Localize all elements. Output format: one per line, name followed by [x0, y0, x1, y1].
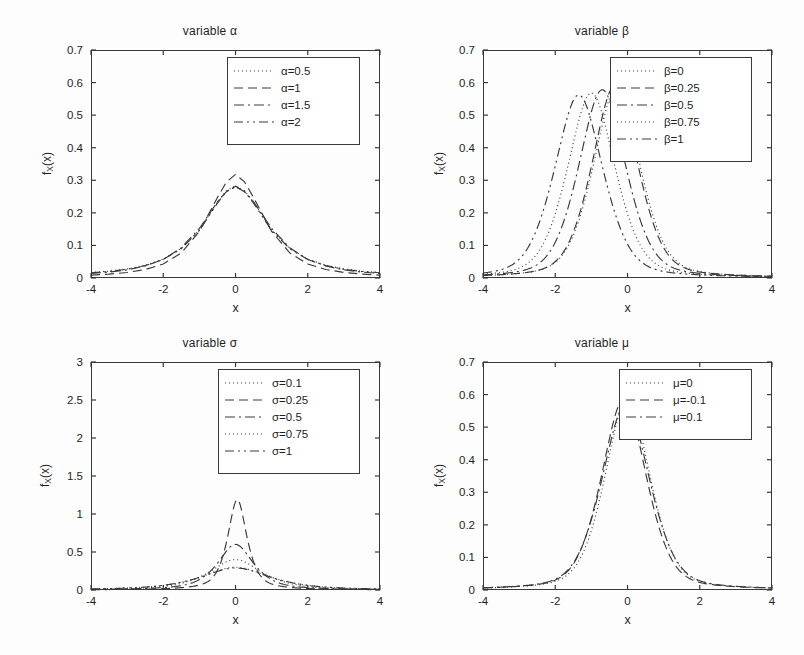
legend-line-sample — [624, 378, 668, 388]
x-tick-label: 2 — [697, 595, 703, 607]
y-axis-label-text: fX(x) — [432, 464, 446, 487]
legend-line-sample — [615, 134, 659, 144]
legend-label: β=0 — [659, 65, 684, 77]
data-curve — [91, 560, 380, 590]
y-tick-label: 0.5 — [422, 109, 475, 121]
legend-line-sample — [223, 395, 267, 405]
legend-row: β=0.5 — [615, 96, 746, 113]
legend-row: σ=0.5 — [223, 408, 354, 425]
y-axis-label-mu: fX(x) — [432, 441, 447, 511]
y-axis-label-text: fX(x) — [40, 152, 54, 175]
x-tick-label: 0 — [624, 283, 630, 295]
legend-label: α=1 — [276, 82, 301, 94]
legend-label: σ=0.25 — [267, 394, 308, 406]
legend-alpha: α=0.5α=1α=1.5α=2 — [227, 57, 360, 145]
y-tick-label: 1.5 — [30, 470, 83, 482]
y-tick-label: 0.6 — [422, 389, 475, 401]
legend-label: σ=0.1 — [267, 377, 302, 389]
legend-label: α=2 — [276, 116, 301, 128]
legend-row: α=1.5 — [232, 96, 354, 113]
y-tick-label: 0.4 — [422, 454, 475, 466]
panel-variable-beta: variable β fX(x) x β=0β=0.25β=0.5β=0.75β… — [412, 24, 792, 329]
y-tick-label: 0.2 — [422, 207, 475, 219]
panel-variable-sigma: variable σ fX(x) x σ=0.1σ=0.25σ=0.5σ=0.7… — [20, 336, 400, 641]
y-tick-label: 0.3 — [422, 174, 475, 186]
y-tick-label: 0 — [422, 272, 475, 284]
y-tick-label: 0.4 — [422, 142, 475, 154]
legend-row: α=2 — [232, 113, 354, 130]
legend-label: μ=-0.1 — [668, 394, 706, 406]
legend-label: β=0.5 — [659, 99, 693, 111]
legend-label: σ=0.75 — [267, 428, 308, 440]
x-tick-label: -4 — [86, 595, 96, 607]
legend-row: μ=0 — [624, 374, 746, 391]
y-tick-label: 2 — [30, 432, 83, 444]
y-axis-label-alpha: fX(x) — [40, 129, 55, 199]
legend-line-sample — [615, 83, 659, 93]
data-curve — [91, 187, 380, 274]
data-curve — [91, 186, 380, 273]
legend-row: σ=0.1 — [223, 374, 354, 391]
y-tick-label: 0.6 — [422, 77, 475, 89]
y-tick-label: 1 — [30, 508, 83, 520]
data-curve — [91, 567, 380, 589]
legend-line-sample — [232, 66, 276, 76]
legend-row: β=0.25 — [615, 79, 746, 96]
legend-label: β=0.75 — [659, 116, 700, 128]
x-tick-label: -4 — [478, 595, 488, 607]
legend-row: α=1 — [232, 79, 354, 96]
y-tick-label: 0.2 — [30, 207, 83, 219]
y-tick-label: 0.5 — [30, 546, 83, 558]
legend-label: σ=0.5 — [267, 411, 302, 423]
data-curve — [91, 568, 380, 589]
y-tick-label: 0.1 — [422, 551, 475, 563]
legend-row: σ=0.25 — [223, 391, 354, 408]
legend-label: σ=1 — [267, 445, 292, 457]
legend-row: β=1 — [615, 130, 746, 147]
legend-row: σ=0.75 — [223, 425, 354, 442]
legend-sigma: σ=0.1σ=0.25σ=0.5σ=0.75σ=1 — [218, 369, 360, 474]
x-tick-label: 2 — [697, 283, 703, 295]
legend-label: μ=0 — [668, 377, 693, 389]
legend-row: β=0.75 — [615, 113, 746, 130]
y-axis-label-text: fX(x) — [432, 152, 446, 175]
legend-label: β=0.25 — [659, 82, 700, 94]
x-tick-label: 0 — [624, 595, 630, 607]
x-axis-label-beta: x — [483, 301, 772, 315]
x-tick-label: 2 — [305, 283, 311, 295]
x-axis-label-sigma: x — [91, 613, 380, 627]
legend-line-sample — [223, 412, 267, 422]
x-tick-label: 4 — [377, 595, 383, 607]
data-curve — [91, 174, 380, 275]
legend-label: α=1.5 — [276, 99, 310, 111]
legend-mu: μ=0μ=-0.1μ=0.1 — [619, 369, 752, 440]
y-tick-label: 0.7 — [422, 356, 475, 368]
legend-label: α=0.5 — [276, 65, 310, 77]
y-axis-label-beta: fX(x) — [432, 129, 447, 199]
y-tick-label: 0.5 — [422, 421, 475, 433]
x-tick-label: -2 — [158, 595, 168, 607]
legend-label: β=1 — [659, 133, 684, 145]
legend-row: α=0.5 — [232, 62, 354, 79]
data-curve — [91, 544, 380, 589]
legend-line-sample — [624, 412, 668, 422]
data-curve — [91, 186, 380, 273]
legend-line-sample — [624, 395, 668, 405]
x-tick-label: 4 — [769, 283, 775, 295]
x-tick-label: 0 — [232, 595, 238, 607]
y-tick-label: 0.1 — [30, 239, 83, 251]
legend-row: β=0 — [615, 62, 746, 79]
legend-row: μ=0.1 — [624, 408, 746, 425]
legend-line-sample — [223, 378, 267, 388]
y-tick-label: 2.5 — [30, 394, 83, 406]
x-tick-label: -4 — [478, 283, 488, 295]
y-tick-label: 0.7 — [422, 44, 475, 56]
x-tick-label: 4 — [769, 595, 775, 607]
y-tick-label: 0.6 — [30, 77, 83, 89]
legend-line-sample — [232, 100, 276, 110]
x-tick-label: -2 — [158, 283, 168, 295]
y-tick-label: 0 — [30, 584, 83, 596]
legend-row: μ=-0.1 — [624, 391, 746, 408]
x-tick-label: -2 — [550, 283, 560, 295]
panel-variable-alpha: variable α fX(x) x α=0.5α=1α=1.5α=2 -4-2… — [20, 24, 400, 329]
